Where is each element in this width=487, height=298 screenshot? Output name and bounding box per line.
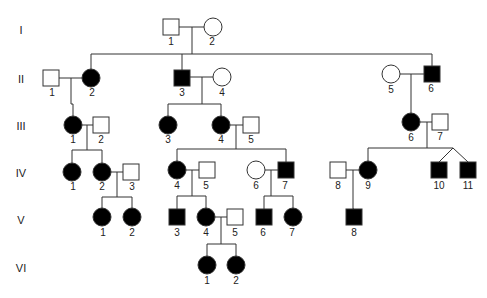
individual-III-7 <box>432 114 448 130</box>
individual-V-7 <box>284 208 302 226</box>
individual-VI-1 <box>198 256 216 274</box>
generation-label-V: V <box>17 214 24 226</box>
label-II-6: 6 <box>428 84 434 94</box>
individual-IV-2 <box>93 163 111 181</box>
individual-V-2 <box>123 208 141 226</box>
individual-IV-10 <box>431 162 447 178</box>
individual-II-5 <box>382 65 400 83</box>
label-II-3: 3 <box>179 88 185 98</box>
individual-I-1 <box>163 19 179 35</box>
individual-IV-8 <box>330 162 346 178</box>
label-IV-11: 11 <box>463 181 473 191</box>
label-IV-9: 9 <box>365 181 371 191</box>
individual-II-6 <box>424 66 440 82</box>
label-V-5: 5 <box>232 228 238 238</box>
individual-III-2 <box>93 117 109 133</box>
label-II-1: 1 <box>49 88 55 98</box>
label-VI-1: 1 <box>204 276 210 286</box>
label-III-2: 2 <box>98 135 104 145</box>
individual-III-3 <box>159 116 177 134</box>
label-IV-2: 2 <box>99 182 105 192</box>
individual-III-1 <box>64 116 82 134</box>
individual-IV-7 <box>278 162 294 178</box>
label-IV-5: 5 <box>203 181 209 191</box>
label-II-4: 4 <box>219 88 225 98</box>
individual-III-5 <box>243 117 259 133</box>
label-III-3: 3 <box>165 135 171 145</box>
individual-IV-1 <box>63 163 81 181</box>
individual-IV-11 <box>460 162 476 178</box>
individual-II-1 <box>43 70 59 86</box>
label-III-4: 4 <box>218 135 224 145</box>
label-IV-4: 4 <box>174 181 180 191</box>
individual-IV-9 <box>359 161 377 179</box>
individual-III-6 <box>402 113 420 131</box>
label-IV-6: 6 <box>253 181 259 191</box>
individual-II-4 <box>213 68 231 86</box>
label-IV-3: 3 <box>129 182 135 192</box>
individual-V-8 <box>346 209 362 225</box>
generation-label-VI: VI <box>16 262 26 274</box>
label-IV-8: 8 <box>335 181 341 191</box>
label-III-6: 6 <box>408 133 414 143</box>
individual-V-5 <box>227 209 243 225</box>
label-V-4: 4 <box>203 228 209 238</box>
label-V-7: 7 <box>289 228 295 238</box>
label-IV-10: 10 <box>433 181 444 191</box>
label-I-2: 2 <box>209 37 215 47</box>
label-V-8: 8 <box>351 228 357 238</box>
label-III-1: 1 <box>70 135 76 145</box>
label-I-1: 1 <box>168 37 174 47</box>
individual-IV-6 <box>247 161 265 179</box>
individual-V-4 <box>197 208 215 226</box>
generation-label-IV: IV <box>16 167 26 179</box>
individual-IV-4 <box>168 161 186 179</box>
individual-IV-5 <box>199 162 215 178</box>
individual-V-1 <box>93 208 111 226</box>
label-V-3: 3 <box>174 228 180 238</box>
individual-I-2 <box>204 18 222 36</box>
individual-III-4 <box>212 116 230 134</box>
label-IV-7: 7 <box>282 181 288 191</box>
individual-V-3 <box>169 209 185 225</box>
label-II-2: 2 <box>89 88 95 98</box>
generation-label-I: I <box>19 24 22 36</box>
generation-label-III: III <box>16 120 25 132</box>
individual-V-6 <box>256 209 272 225</box>
label-V-2: 2 <box>129 228 135 238</box>
label-V-1: 1 <box>100 228 106 238</box>
label-IV-1: 1 <box>70 182 76 192</box>
pedigree-diagram <box>0 0 487 298</box>
label-VI-2: 2 <box>233 276 239 286</box>
label-III-7: 7 <box>437 132 443 142</box>
individual-VI-2 <box>227 256 245 274</box>
individual-II-2 <box>82 69 100 87</box>
generation-label-II: II <box>18 73 24 85</box>
individual-IV-3 <box>123 164 139 180</box>
label-V-6: 6 <box>260 228 266 238</box>
label-III-5: 5 <box>248 135 254 145</box>
label-II-5: 5 <box>388 85 394 95</box>
individual-II-3 <box>174 70 190 86</box>
